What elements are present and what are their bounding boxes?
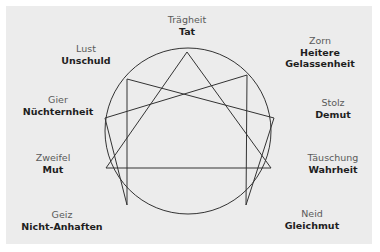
virtue-label: Nüchternheit xyxy=(23,106,94,118)
label-point-9: Trägheit Tat xyxy=(168,14,206,37)
enneagram-hexad xyxy=(105,75,274,205)
virtue-label: Mut xyxy=(36,164,71,176)
virtue-label: Wahrheit xyxy=(308,164,359,176)
virtue-label: Gleichmut xyxy=(285,220,339,232)
vice-label: Stolz xyxy=(315,97,351,109)
vice-label: Trägheit xyxy=(168,14,206,26)
label-point-3: Täuschung Wahrheit xyxy=(308,152,359,175)
label-point-2: Stolz Demut xyxy=(315,97,351,120)
label-point-1: Zorn Heitere Gelassenheit xyxy=(285,35,354,70)
vice-label: Täuschung xyxy=(308,152,359,164)
virtue-label: Demut xyxy=(315,109,351,121)
virtue-label: Unschuld xyxy=(61,55,110,67)
virtue-label: Nicht-Anhaften xyxy=(21,221,102,233)
label-point-4: Neid Gleichmut xyxy=(285,208,339,231)
label-point-7: Gier Nüchternheit xyxy=(23,94,94,117)
virtue-label: Heitere xyxy=(285,47,354,59)
label-point-8: Lust Unschuld xyxy=(61,43,110,66)
virtue-label: Tat xyxy=(168,26,206,38)
label-point-6: Zweifel Mut xyxy=(36,152,71,175)
vice-label: Neid xyxy=(285,208,339,220)
vice-label: Zweifel xyxy=(36,152,71,164)
vice-label: Lust xyxy=(61,43,110,55)
vice-label: Gier xyxy=(23,94,94,106)
vice-label: Zorn xyxy=(285,35,354,47)
virtue-label-line2: Gelassenheit xyxy=(285,58,354,70)
label-point-5: Geiz Nicht-Anhaften xyxy=(21,209,102,232)
vice-label: Geiz xyxy=(21,209,102,221)
